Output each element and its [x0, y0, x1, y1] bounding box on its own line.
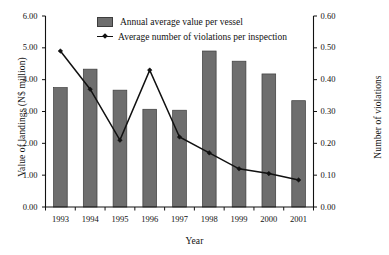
- y-axis-right-tick-label: 0.00: [321, 203, 347, 212]
- bar-series: [54, 51, 306, 207]
- y-axis-right-tick-label: 0.50: [321, 43, 347, 52]
- x-axis-title: Year: [0, 236, 389, 246]
- legend-bar-swatch-icon: [97, 17, 113, 27]
- y-axis-right-tick-label: 0.30: [321, 107, 347, 116]
- y-axis-left-tick-label: 5.00: [12, 43, 38, 52]
- bar: [54, 88, 68, 207]
- y-axis-right-tick-label: 0.60: [321, 12, 347, 21]
- y-axis-right-title: Number of violations: [373, 32, 383, 202]
- y-axis-left-tick-label: 0.00: [12, 203, 38, 212]
- bar: [202, 51, 216, 207]
- legend-item-line: Average number of violations per inspect…: [97, 29, 327, 44]
- legend-item-label: Average number of violations per inspect…: [118, 32, 287, 42]
- bar: [143, 109, 157, 207]
- y-axis-left-tick-label: 3.00: [12, 107, 38, 116]
- chart-container: Value of landings (N$ million) Number of…: [0, 0, 389, 255]
- bar: [232, 61, 246, 207]
- line-marker: [147, 68, 152, 73]
- chart-legend: Annual average value per vessel Average …: [97, 14, 327, 44]
- y-axis-right-tick-label: 0.10: [321, 171, 347, 180]
- y-axis-left-tick-label: 6.00: [12, 12, 38, 21]
- x-axis-tick-label: 2001: [282, 215, 316, 224]
- bar: [292, 101, 306, 207]
- y-axis-left-tick-label: 1.00: [12, 171, 38, 180]
- y-axis-right-tick-label: 0.40: [321, 75, 347, 84]
- legend-item-bars: Annual average value per vessel: [97, 14, 327, 29]
- y-axis-left-tick-label: 2.00: [12, 139, 38, 148]
- legend-item-label: Annual average value per vessel: [120, 17, 243, 27]
- legend-line-marker-icon: [97, 33, 113, 41]
- y-axis-right-tick-label: 0.20: [321, 139, 347, 148]
- bar: [113, 90, 127, 207]
- bar: [262, 74, 276, 207]
- y-axis-left-tick-label: 4.00: [12, 75, 38, 84]
